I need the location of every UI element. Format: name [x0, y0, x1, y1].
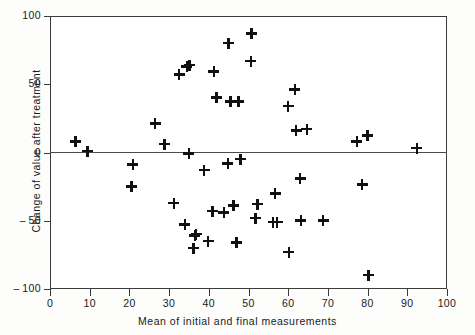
y-axis-tick	[44, 84, 51, 85]
x-axis-tick-label: 50	[242, 297, 254, 309]
x-axis-tick	[368, 289, 369, 296]
x-axis-tick-label: 40	[203, 297, 215, 309]
x-axis-title: Mean of initial and final measurements	[0, 315, 475, 327]
y-axis-tick	[44, 16, 51, 17]
y-axis-title: Change of value after treatment	[30, 21, 42, 281]
x-axis-tick-label: 90	[401, 297, 413, 309]
y-axis-tick	[44, 153, 51, 154]
scatter-plot-figure: – 100– 50050100 0102030405060708090100 M…	[0, 0, 475, 335]
x-axis-tick-label: 0	[47, 297, 53, 309]
x-axis-tick-label: 30	[163, 297, 175, 309]
x-axis-tick	[407, 289, 408, 296]
x-axis-tick	[129, 289, 130, 296]
x-axis-tick-label: 60	[282, 297, 294, 309]
y-axis-tick	[44, 221, 51, 222]
x-axis-tick	[90, 289, 91, 296]
x-axis-tick-label: 20	[123, 297, 135, 309]
x-axis-tick-label: 10	[83, 297, 95, 309]
x-axis-tick-label: 100	[438, 297, 457, 309]
x-axis-tick	[328, 289, 329, 296]
x-axis-tick	[169, 289, 170, 296]
x-axis-tick	[447, 289, 448, 296]
y-axis-tick-label: – 100	[0, 282, 41, 294]
x-axis-tick-label: 70	[322, 297, 334, 309]
zero-reference-line	[50, 152, 447, 153]
x-axis-tick	[288, 289, 289, 296]
y-axis-tick-label: 100	[0, 9, 41, 21]
x-axis-tick	[50, 289, 51, 296]
x-axis-tick	[209, 289, 210, 296]
x-axis-tick	[249, 289, 250, 296]
x-axis-tick-label: 80	[361, 297, 373, 309]
